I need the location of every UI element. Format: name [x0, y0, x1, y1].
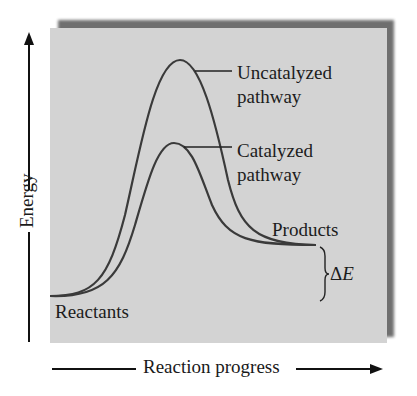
delta-e-brace: [320, 247, 329, 301]
uncatalyzed-label-line1: Uncatalyzed: [237, 62, 332, 84]
energy-variable: E: [342, 263, 354, 284]
x-axis-label: Reaction progress: [143, 356, 280, 378]
catalyzed-label-line1: Catalyzed: [237, 140, 313, 162]
y-axis-label: Energy: [16, 173, 38, 228]
y-axis-arrow-icon: [24, 32, 34, 45]
reactants-label: Reactants: [55, 301, 129, 323]
uncatalyzed-label-line2: pathway: [237, 86, 301, 108]
products-label: Products: [272, 219, 339, 241]
delta-symbol: Δ: [330, 263, 342, 284]
catalyzed-label-line2: pathway: [237, 164, 301, 186]
delta-e-label: ΔE: [330, 263, 354, 285]
x-axis-arrow-icon: [370, 364, 383, 374]
energy-diagram: [0, 0, 417, 396]
